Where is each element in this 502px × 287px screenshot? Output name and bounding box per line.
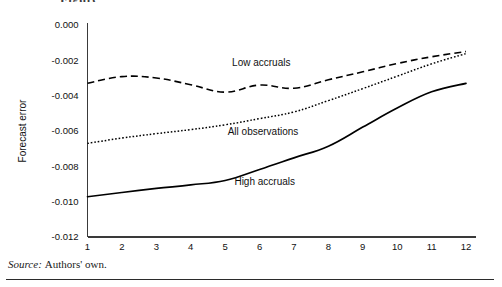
y-tick-label: -0.008 [52,161,79,172]
x-tick-label: 10 [392,241,403,252]
x-tick-label: 11 [427,241,437,252]
x-tick-label: 1 [85,241,90,252]
y-tick-label: -0.004 [52,90,79,101]
x-tick-label: 8 [326,241,331,252]
series-label-all-observations: All observations [228,126,299,137]
line-chart-svg: 0.000-0.002-0.004-0.006-0.008-0.010-0.01… [0,0,502,255]
x-axis-tick-labels: 123456789101112 [85,241,471,252]
y-tick-label: -0.006 [52,125,79,136]
x-tick-label: 6 [257,241,262,252]
series-label-high-accruals: High accruals [234,176,295,187]
chart-plot-area: 0.000-0.002-0.004-0.006-0.008-0.010-0.01… [0,0,502,255]
source-value: Authors' own. [45,258,107,270]
y-axis-title: Forecast error [17,99,28,162]
x-tick-label: 2 [119,241,124,252]
x-tick-label: 5 [222,241,227,252]
series-label-low-accruals: Low accruals [232,57,290,68]
series-annotation-group: Low accrualsAll observationsHigh accrual… [228,57,299,187]
x-tick-label: 3 [154,241,159,252]
x-tick-label: 4 [188,241,193,252]
x-tick-label: 12 [461,241,472,252]
x-tick-label: 9 [360,241,365,252]
y-axis-tick-labels: 0.000-0.002-0.004-0.006-0.008-0.010-0.01… [52,19,79,242]
y-tick-label: -0.002 [52,55,79,66]
source-label: Source: [8,258,42,270]
figure-container: Figure 0.000-0.002-0.004-0.006-0.008-0.0… [0,0,502,287]
y-tick-label: -0.010 [52,196,79,207]
bottom-divider [6,279,494,280]
x-tick-label: 7 [291,241,296,252]
y-tick-label: 0.000 [55,19,79,30]
source-note: Source:Authors' own. [8,258,107,270]
y-tick-label: -0.012 [52,231,79,242]
